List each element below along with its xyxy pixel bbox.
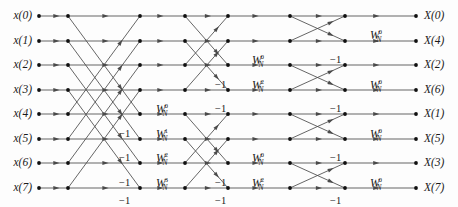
twiddle-factor-s3-p3-w0: W0N xyxy=(370,178,382,190)
output-label-1: X(4) xyxy=(424,35,444,47)
stage1-left-node xyxy=(66,39,70,43)
flow-arrowhead xyxy=(53,161,59,165)
stage3-right-node xyxy=(343,14,347,18)
twiddle-subscript: N xyxy=(259,183,264,192)
output-label-3: X(6) xyxy=(424,84,444,96)
output-node xyxy=(414,88,418,92)
flow-arrowhead xyxy=(53,63,59,67)
twiddle-subscript: N xyxy=(377,85,382,94)
stage3-right-node xyxy=(343,88,347,92)
stage1-right-node xyxy=(138,39,142,43)
input-label-6: x(6) xyxy=(13,157,32,169)
flow-arrowhead xyxy=(117,65,122,71)
flow-arrowhead xyxy=(373,63,379,67)
minus-one-label-s2-m1: −1 xyxy=(215,104,226,115)
stage1-left-node xyxy=(66,137,70,141)
stage2-left-node xyxy=(183,112,187,116)
stage1-right-node xyxy=(138,14,142,18)
flow-arrowhead xyxy=(316,112,322,116)
flow-arrowhead xyxy=(157,88,163,92)
twiddle-factor-s2-lower-w2: W2N xyxy=(252,178,264,190)
twiddle-subscript: N xyxy=(259,158,264,167)
flow-arrowhead xyxy=(327,21,333,25)
flow-arrowhead xyxy=(316,137,322,141)
input-node xyxy=(37,14,41,18)
twiddle-factor-s2-upper-w2: W2N xyxy=(252,80,264,92)
flow-arrowhead xyxy=(117,114,122,120)
twiddle-factor-s1-w3: W3N xyxy=(156,178,168,190)
stage2-left-node xyxy=(183,137,187,141)
input-node xyxy=(37,137,41,141)
output-node xyxy=(414,39,418,43)
output-node xyxy=(414,137,418,141)
flow-arrowhead xyxy=(316,14,322,18)
flow-arrowhead xyxy=(316,88,322,92)
twiddle-factor-s3-p2-w0: W0N xyxy=(370,129,382,141)
input-label-4: x(4) xyxy=(13,108,32,120)
twiddle-factor-s1-w0: W0N xyxy=(156,104,168,116)
stage2-right-node xyxy=(226,63,230,67)
minus-one-label-s3-m2: −1 xyxy=(330,153,341,164)
stage2-right-node xyxy=(226,137,230,141)
output-node xyxy=(414,63,418,67)
minus-one-label-s2-m2: −1 xyxy=(215,178,226,189)
stage3-left-node xyxy=(288,186,292,190)
flow-arrowhead xyxy=(316,186,322,190)
fft-flow-graph-svg xyxy=(0,0,458,207)
output-label-0: X(0) xyxy=(424,10,444,22)
stage3-right-node xyxy=(343,161,347,165)
input-label-5: x(5) xyxy=(13,133,32,145)
input-label-1: x(1) xyxy=(13,35,32,47)
flow-arrowhead xyxy=(316,63,322,67)
stage2-right-node xyxy=(226,39,230,43)
twiddle-subscript: N xyxy=(259,85,264,94)
minus-one-label-s3-m0: −1 xyxy=(330,55,341,66)
flow-arrowhead xyxy=(102,39,108,43)
stage3-left-node xyxy=(288,112,292,116)
flow-arrowhead xyxy=(205,88,211,92)
flow-arrowhead xyxy=(53,88,59,92)
stage1-right-node xyxy=(138,88,142,92)
output-label-6: X(3) xyxy=(424,157,444,169)
stage3-left-node xyxy=(288,63,292,67)
flow-arrowhead xyxy=(316,161,322,165)
stage2-left-node xyxy=(183,14,187,18)
flow-arrowhead xyxy=(157,39,163,43)
flow-arrowhead xyxy=(102,161,108,165)
stage1-left-node xyxy=(66,63,70,67)
minus-one-label-s1-m0: −1 xyxy=(119,129,130,140)
stage2-right-node xyxy=(226,161,230,165)
twiddle-subscript: N xyxy=(163,158,168,167)
flow-arrowhead xyxy=(252,14,258,18)
minus-one-label-s1-m2: −1 xyxy=(119,178,130,189)
input-node xyxy=(37,39,41,43)
flow-arrowhead xyxy=(373,112,379,116)
twiddle-subscript: N xyxy=(377,35,382,44)
flow-arrowhead xyxy=(53,186,59,190)
stage1-right-node xyxy=(138,161,142,165)
flow-arrowhead xyxy=(316,39,322,43)
stage3-left-node xyxy=(288,88,292,92)
input-node xyxy=(37,161,41,165)
twiddle-factor-s2-upper-w0: W0N xyxy=(252,55,264,67)
flow-arrowhead xyxy=(205,14,211,18)
stage1-right-node xyxy=(138,186,142,190)
stage2-left-node xyxy=(183,161,187,165)
twiddle-subscript: N xyxy=(163,183,168,192)
flow-arrowhead xyxy=(373,161,379,165)
flow-arrowhead xyxy=(327,81,333,85)
stage3-right-node xyxy=(343,63,347,67)
stage2-right-node xyxy=(226,186,230,190)
flow-arrowhead xyxy=(327,168,333,172)
minus-one-label-s1-m1: −1 xyxy=(119,153,130,164)
flow-arrowhead xyxy=(157,14,163,18)
flow-arrowhead xyxy=(102,186,108,190)
output-label-5: X(5) xyxy=(424,133,444,145)
stage1-left-node xyxy=(66,186,70,190)
flow-arrowhead xyxy=(327,119,333,123)
stage2-right-node xyxy=(226,14,230,18)
stage2-left-node xyxy=(183,39,187,43)
twiddle-factor-s1-w1: W1N xyxy=(156,129,168,141)
stage3-right-node xyxy=(343,39,347,43)
input-label-2: x(2) xyxy=(13,59,32,71)
